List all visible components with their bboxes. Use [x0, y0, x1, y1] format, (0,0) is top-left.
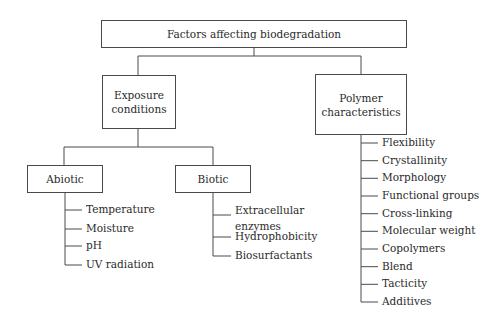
leaf-crystallinity: Crystallinity — [382, 154, 447, 167]
leaf-molecular-weight: Molecular weight — [382, 224, 476, 237]
leaf-blend: Blend — [382, 260, 413, 273]
leaf-uv-radiation: UV radiation — [86, 258, 154, 271]
exposure-conditions-label-line2: conditions — [111, 102, 166, 116]
leaf-tacticity: Tacticity — [382, 277, 427, 290]
leaf-moisture: Moisture — [86, 222, 134, 235]
leaf-ph: pH — [86, 239, 102, 252]
exposure-conditions-label-line1: Exposure — [114, 88, 164, 102]
leaf-extracellular-enzymes-line1: Extracellular — [235, 202, 304, 218]
root-node: Factors affecting biodegradation — [101, 20, 407, 48]
leaf-morphology: Morphology — [382, 171, 446, 184]
leaf-temperature: Temperature — [86, 203, 155, 216]
leaf-biosurfactants: Biosurfactants — [235, 249, 312, 262]
abiotic-node: Abiotic — [27, 165, 103, 193]
exposure-conditions-node: Exposure conditions — [102, 75, 176, 129]
leaf-cross-linking: Cross-linking — [382, 207, 452, 220]
biotic-label: Biotic — [198, 172, 229, 186]
diagram-canvas: Factors affecting biodegradation Exposur… — [0, 0, 489, 322]
leaf-flexibility: Flexibility — [382, 136, 435, 149]
polymer-characteristics-label-line1: Polymer — [339, 91, 382, 105]
abiotic-label: Abiotic — [46, 172, 83, 186]
leaf-copolymers: Copolymers — [382, 242, 445, 255]
root-node-label: Factors affecting biodegradation — [167, 27, 341, 41]
leaf-hydrophobicity: Hydrophobicity — [235, 230, 317, 243]
polymer-characteristics-node: Polymer characteristics — [315, 74, 407, 135]
leaf-functional-groups: Functional groups — [382, 189, 479, 202]
polymer-characteristics-label-line2: characteristics — [321, 105, 400, 119]
biotic-node: Biotic — [175, 165, 251, 193]
leaf-additives: Additives — [382, 295, 432, 308]
